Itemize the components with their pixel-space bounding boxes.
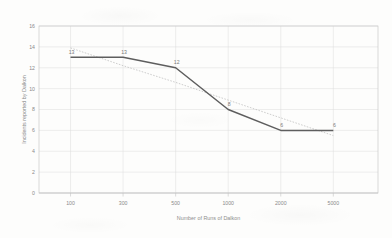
x-axis-tick-labels: 100300500100020005000 <box>66 200 339 206</box>
svg-text:100: 100 <box>66 200 75 206</box>
y-axis-tick-labels: 0246810121416 <box>29 23 35 196</box>
svg-text:1000: 1000 <box>222 200 234 206</box>
line-chart-svg: 0246810121416 100300500100020005000 1313… <box>0 0 392 238</box>
gridlines-group <box>39 26 378 193</box>
x-axis-title: Number of Runs of Dalkon <box>177 215 241 221</box>
svg-text:4: 4 <box>32 148 35 154</box>
svg-text:300: 300 <box>119 200 128 206</box>
svg-text:6: 6 <box>32 127 35 133</box>
x-axis-tick-marks <box>39 193 378 197</box>
svg-text:13: 13 <box>121 49 127 55</box>
svg-text:10: 10 <box>29 86 35 92</box>
svg-text:2: 2 <box>32 169 35 175</box>
trendline <box>71 48 334 136</box>
svg-text:0: 0 <box>32 190 35 196</box>
svg-text:5000: 5000 <box>328 200 340 206</box>
svg-text:14: 14 <box>29 44 35 50</box>
y-axis-title: Incidents reported by Dalkon <box>21 75 27 144</box>
svg-text:8: 8 <box>228 101 231 107</box>
svg-text:12: 12 <box>174 59 180 65</box>
svg-text:6: 6 <box>333 122 336 128</box>
chart-figure: 0246810121416 100300500100020005000 1313… <box>0 0 392 238</box>
svg-text:8: 8 <box>32 106 35 112</box>
data-series-line <box>71 57 334 130</box>
svg-text:12: 12 <box>29 65 35 71</box>
svg-text:16: 16 <box>29 23 35 29</box>
svg-text:500: 500 <box>171 200 180 206</box>
svg-text:2000: 2000 <box>275 200 287 206</box>
svg-text:6: 6 <box>280 122 283 128</box>
svg-text:13: 13 <box>69 49 75 55</box>
